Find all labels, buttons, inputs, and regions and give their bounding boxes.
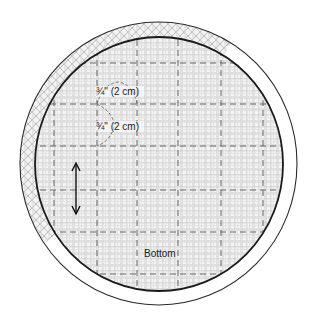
measurement-label-vertical: ¾" (2 cm) [96, 121, 139, 132]
measurement-label-horizontal: ¾" (2 cm) [96, 86, 139, 97]
pattern-diagram: ¾" (2 cm) ¾" (2 cm) Bottom [0, 0, 315, 324]
piece-name-label: Bottom [144, 248, 176, 259]
